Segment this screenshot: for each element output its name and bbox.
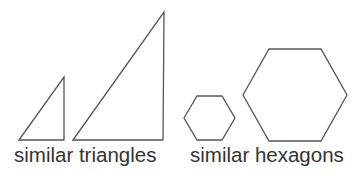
small-triangle: [19, 77, 64, 140]
small-hexagon: [184, 96, 235, 140]
caption-similar-hexagons: similar hexagons: [190, 145, 344, 166]
large-hexagon: [243, 49, 347, 141]
large-triangle: [73, 12, 164, 140]
caption-similar-triangles: similar triangles: [14, 145, 156, 166]
